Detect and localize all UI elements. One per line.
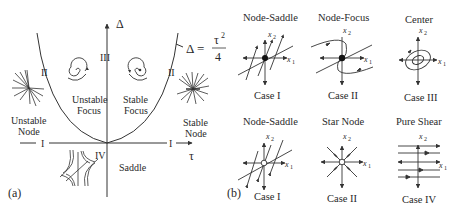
stable-spiral-icon bbox=[128, 58, 147, 80]
svg-text:x: x bbox=[418, 26, 423, 35]
node-saddle-filled-portrait bbox=[238, 36, 293, 85]
equation-exponent: 2 bbox=[221, 31, 225, 40]
delta-axis-label: Δ bbox=[116, 17, 124, 31]
cell-6-title: Pure Shear bbox=[396, 116, 442, 127]
equation-lhs: Δ = bbox=[186, 41, 204, 56]
svg-text:x: x bbox=[265, 132, 270, 141]
region-stable-node-line2: Node bbox=[185, 128, 207, 139]
svg-text:2: 2 bbox=[271, 136, 274, 142]
panel-a-trace-determinant-diagram bbox=[12, 24, 209, 197]
svg-text:1: 1 bbox=[444, 165, 447, 171]
node-saddle-hollow-portrait bbox=[238, 140, 292, 190]
svg-text:x: x bbox=[363, 55, 368, 64]
svg-text:1: 1 bbox=[290, 164, 293, 170]
region-stable-focus-line1: Stable bbox=[123, 94, 149, 105]
case-mark-left-I: I bbox=[41, 138, 44, 149]
svg-text:2: 2 bbox=[273, 34, 276, 40]
svg-text:x: x bbox=[286, 55, 291, 64]
svg-text:2: 2 bbox=[348, 30, 351, 36]
region-unstable-node-line2: Node bbox=[18, 126, 40, 137]
cell-5-case: Case II bbox=[327, 193, 358, 204]
svg-text:1: 1 bbox=[443, 61, 446, 67]
svg-text:1: 1 bbox=[368, 163, 371, 169]
equation-numerator: τ bbox=[214, 33, 219, 47]
cell-3-case: Case III bbox=[404, 92, 438, 103]
region-unstable-node-line1: Unstable bbox=[11, 115, 47, 126]
tau-axis-label: τ bbox=[189, 149, 194, 163]
region-unstable-focus-line2: Focus bbox=[77, 105, 101, 116]
svg-text:2: 2 bbox=[424, 30, 427, 36]
cell-6-case: Case IV bbox=[402, 194, 437, 205]
svg-text:x: x bbox=[267, 30, 272, 39]
svg-text:x: x bbox=[418, 132, 423, 141]
case-mark-left-II: II bbox=[41, 67, 48, 78]
region-unstable-focus-line1: Unstable bbox=[72, 94, 108, 105]
saddle-icon bbox=[60, 150, 98, 186]
case-mark-IV: IV bbox=[95, 150, 106, 161]
stable-node-icon bbox=[177, 72, 209, 104]
svg-text:x: x bbox=[342, 26, 347, 35]
cell-4-case: Case I bbox=[254, 191, 281, 202]
svg-text:2: 2 bbox=[424, 136, 427, 142]
svg-text:x: x bbox=[362, 159, 367, 168]
svg-text:x: x bbox=[438, 161, 443, 170]
case-mark-right-II: II bbox=[168, 67, 175, 78]
region-saddle: Saddle bbox=[119, 162, 147, 173]
svg-text:x: x bbox=[284, 160, 289, 169]
region-stable-node-line1: Stable bbox=[183, 117, 209, 128]
region-stable-focus-line2: Focus bbox=[124, 105, 148, 116]
svg-text:1: 1 bbox=[369, 59, 372, 65]
star-node-portrait bbox=[321, 146, 363, 188]
svg-text:x: x bbox=[437, 57, 442, 66]
svg-text:1: 1 bbox=[292, 59, 295, 65]
cell-1-title: Node-Saddle bbox=[243, 12, 298, 23]
pure-shear-portrait bbox=[398, 145, 440, 188]
cell-1-case: Case I bbox=[254, 90, 281, 101]
case-mark-right-I: I bbox=[169, 138, 172, 149]
panel-b-label: (b) bbox=[227, 186, 241, 200]
cell-2-case: Case II bbox=[328, 90, 359, 101]
center-portrait bbox=[399, 37, 437, 85]
cell-2-title: Node-Focus bbox=[318, 12, 369, 23]
cell-5-title: Star Node bbox=[322, 116, 365, 127]
cell-4-title: Node-Saddle bbox=[243, 116, 298, 127]
svg-text:x: x bbox=[342, 132, 347, 141]
unstable-spiral-icon bbox=[68, 58, 87, 80]
svg-text:2: 2 bbox=[348, 136, 351, 142]
cell-3-title: Center bbox=[405, 14, 433, 25]
unstable-node-icon bbox=[12, 70, 44, 106]
case-mark-III: III bbox=[100, 52, 110, 63]
figure-canvas: Δ τ Δ = τ 2 4 Unstable Focus Stable Focu… bbox=[0, 0, 457, 217]
panel-a-label: (a) bbox=[8, 186, 21, 200]
equation-pointer bbox=[176, 44, 183, 47]
equation-denominator: 4 bbox=[215, 50, 221, 64]
